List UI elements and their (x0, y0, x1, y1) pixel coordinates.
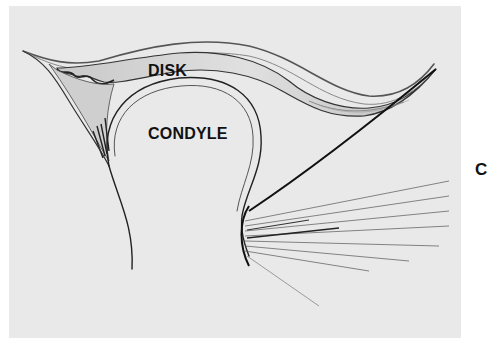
illustration-panel: DISK CONDYLE (9, 6, 461, 338)
condyle-label: CONDYLE (148, 125, 228, 143)
tmj-anatomy-drawing (9, 6, 461, 338)
eminence-line (249, 69, 436, 211)
disk-label: DISK (148, 62, 187, 80)
condyle-outline (107, 78, 261, 269)
muscle-fibers (245, 181, 449, 306)
panel-letter: C (475, 160, 487, 180)
